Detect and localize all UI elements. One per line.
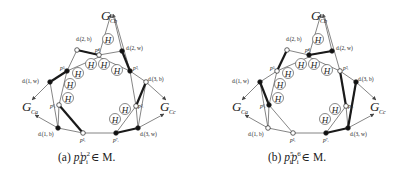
svg-text:dᵢ(1, w): dᵢ(1, w) [232,78,249,85]
vertex-d2w [330,49,335,54]
vertex-labels: G Cb G Ca G Cc dᵢ(2, b) dᵢ(2, w) dᵢ(1, w… [22,8,176,143]
matching-edges [50,50,146,133]
svg-text:p⁴ᵢ: p⁴ᵢ [94,47,101,53]
svg-text:H: H [276,80,284,90]
vertex-d1w [48,80,53,85]
svg-text:H: H [66,80,74,90]
h-circle-icon: H [73,68,84,79]
svg-text:Cb: Cb [320,18,327,24]
vertex-p4 [307,53,312,58]
vertex-d1b [56,126,61,131]
svg-text:p⁷ᵢ: p⁷ᵢ [322,137,329,143]
svg-text:H: H [121,105,129,115]
vertex-d3w [346,126,351,131]
svg-text:p⁶ᵢ: p⁶ᵢ [49,103,56,109]
h-circle-icon: H [283,68,294,79]
vertex-top-left [285,48,290,53]
thin-edges [32,14,166,133]
vertex-d2w [120,49,125,54]
svg-text:H: H [284,69,292,79]
vertex-p6 [267,103,272,108]
h-circle-icon: H [309,59,320,70]
svg-text:H: H [64,94,72,104]
vertex-d1b [266,126,271,131]
panel-b-graph: H H H H H H H H H G Cb [232,8,386,143]
svg-text:H: H [310,60,318,70]
caption-panel-a: (a) p1ip2i ∈ M. [58,150,115,166]
h-circle-icon: H [112,65,123,76]
h-circle-icon: H [275,79,286,90]
caption-suffix: ∈ M. [299,151,326,163]
h-circle-icon: H [103,34,114,45]
caption-prefix: (a) [58,151,74,163]
vertex-p6 [57,103,62,108]
h-circle-icon: H [110,114,121,125]
panel-a-graph: H H H H H H H H H G [22,8,176,143]
vertex-labels: G Cb G Ca G Cc dᵢ(2, b) dᵢ(2, w) dᵢ(1, w… [232,8,386,143]
svg-text:p²ᵢ: p²ᵢ [137,103,143,109]
svg-text:dᵢ(3, b): dᵢ(3, b) [358,76,374,83]
svg-text:Ca: Ca [31,109,38,115]
h-circle-icon: H [320,114,331,125]
svg-text:H: H [321,115,329,125]
matching-edges [260,50,356,133]
svg-text:dᵢ(1, w): dᵢ(1, w) [22,78,39,85]
svg-text:dᵢ(3, w): dᵢ(3, w) [350,131,367,138]
svg-text:p⁵ᵢ: p⁵ᵢ [269,65,276,71]
svg-text:Ca: Ca [241,109,248,115]
svg-text:dᵢ(1, b): dᵢ(1, b) [248,131,264,138]
vertex-p1 [291,131,296,136]
svg-text:dᵢ(3, b): dᵢ(3, b) [148,76,164,83]
svg-text:H: H [331,105,339,115]
svg-text:p¹ᵢ: p¹ᵢ [79,137,85,143]
svg-text:p¹ᵢ: p¹ᵢ [289,137,295,143]
svg-text:dᵢ(2, b): dᵢ(2, b) [286,36,302,43]
vertex-p3 [338,69,343,74]
svg-text:p²ᵢ: p²ᵢ [347,103,353,109]
vertex-d1w [258,80,263,85]
h-circle-icon: H [120,104,131,115]
vertex-p7 [324,131,329,136]
vertex-p7 [114,131,119,136]
svg-text:H: H [104,35,112,45]
svg-text:Cc: Cc [379,109,386,115]
vertex-p3 [128,69,133,74]
svg-text:dᵢ(2, w): dᵢ(2, w) [336,45,353,52]
svg-text:H: H [100,60,108,70]
svg-text:dᵢ(2, b): dᵢ(2, b) [76,36,92,43]
vertex-p1 [81,131,86,136]
vertex-d3w [136,126,141,131]
svg-text:H: H [113,66,121,76]
svg-text:p³ᵢ: p³ᵢ [342,65,348,71]
h-circle-icon: H [296,59,307,70]
h-circle-icon: H [322,65,333,76]
h-circle-icon: H [63,93,74,104]
h-circle-icon: H [273,93,284,104]
svg-text:dᵢ(3, w): dᵢ(3, w) [140,131,157,138]
svg-text:p³ᵢ: p³ᵢ [132,65,138,71]
h-circle-icon: H [65,79,76,90]
svg-text:p⁴ᵢ: p⁴ᵢ [304,47,311,53]
svg-text:p⁵ᵢ: p⁵ᵢ [59,65,66,71]
caption-suffix: ∈ M. [88,151,115,163]
svg-text:p⁷ᵢ: p⁷ᵢ [112,137,119,143]
svg-text:Cc: Cc [169,109,176,115]
h-circle-icon: H [330,104,341,115]
h-circle-icon: H [313,34,324,45]
svg-text:H: H [111,115,119,125]
svg-text:H: H [297,60,305,70]
caption-prefix: (b) [268,151,284,163]
caption-panel-b: (b) p5ip6i ∈ M. [268,150,326,166]
h-circle-icon: H [99,59,110,70]
thin-edges [242,14,376,133]
svg-text:dᵢ(1, b): dᵢ(1, b) [38,131,54,138]
svg-text:H: H [274,94,282,104]
svg-text:H: H [87,60,95,70]
svg-text:H: H [314,35,322,45]
svg-text:p⁶ᵢ: p⁶ᵢ [259,103,266,109]
svg-text:H: H [74,69,82,79]
vertex-top-left [75,48,80,53]
svg-text:dᵢ(2, w): dᵢ(2, w) [126,45,143,52]
vertex-p4 [97,53,102,58]
svg-text:H: H [323,66,331,76]
